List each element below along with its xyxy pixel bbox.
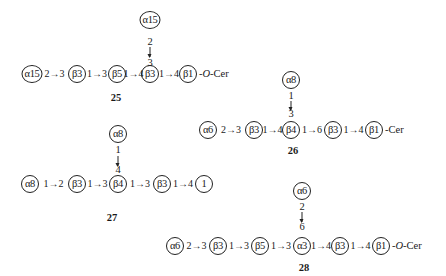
- branch-from-position: 2: [299, 202, 304, 213]
- linkage-label: 1→4: [311, 241, 331, 251]
- branch-sugar-node: α6: [293, 182, 311, 200]
- linkage-label: 1→3: [87, 69, 107, 79]
- sugar-node: β5: [251, 237, 269, 255]
- branch-arrow: [150, 47, 151, 57]
- linkage-label: 2→3: [221, 125, 241, 135]
- sugar-node: β1: [365, 121, 383, 139]
- sugar-node: β3: [331, 237, 349, 255]
- compound-number-label: 25: [111, 92, 122, 103]
- linkage-label: 1→3: [271, 241, 291, 251]
- linkage-label: 1→3: [229, 241, 249, 251]
- sugar-node: α6: [199, 121, 217, 139]
- branch-sugar-node: α15: [140, 11, 161, 29]
- linkage-label: 1→4: [344, 125, 364, 135]
- sugar-node: α8: [21, 175, 39, 193]
- linkage-label: 2→3: [187, 241, 207, 251]
- sugar-node: 1: [195, 175, 213, 193]
- sugar-node: β3: [153, 175, 171, 193]
- sugar-node: α15: [22, 65, 43, 83]
- compound-number-label: 28: [299, 262, 310, 273]
- sugar-node: β3: [209, 237, 227, 255]
- linkage-label: 1→4: [263, 125, 283, 135]
- linkage-label: 1→4: [173, 179, 193, 189]
- ceramide-terminal: -O-Cer: [392, 241, 422, 252]
- sugar-node: β1: [179, 65, 197, 83]
- sugar-node: β1: [372, 237, 390, 255]
- sugar-node: β4: [282, 121, 300, 139]
- compound-number-label: 26: [288, 145, 299, 156]
- linkage-label: 1→2: [44, 179, 64, 189]
- branch-sugar-node: α8: [109, 125, 127, 143]
- sugar-node: α3: [293, 237, 311, 255]
- branch-from-position: 2: [147, 37, 152, 48]
- branch-to-position: 4: [115, 165, 120, 176]
- sugar-node: β4: [109, 175, 127, 193]
- compound-number-label: 27: [107, 212, 118, 223]
- sugar-node: β3: [68, 175, 86, 193]
- linkage-label: 1→4: [124, 69, 144, 79]
- linkage-label: 2→3: [45, 69, 65, 79]
- linkage-label: 1→3: [130, 179, 150, 189]
- linkage-label: 1→3: [88, 179, 108, 189]
- linkage-label: 1→4: [159, 69, 179, 79]
- branch-to-position: 6: [299, 222, 304, 233]
- branch-to-position: 3: [147, 58, 152, 69]
- branch-from-position: 1: [288, 91, 293, 102]
- linkage-label: 1→4: [351, 241, 371, 251]
- branch-sugar-node: α8: [282, 71, 300, 89]
- branch-from-position: 1: [115, 145, 120, 156]
- sugar-node: β3: [245, 121, 263, 139]
- ceramide-terminal: -Cer: [385, 125, 404, 136]
- ceramide-terminal: -O-Cer: [199, 69, 229, 80]
- branch-to-position: 3: [288, 109, 293, 120]
- linkage-label: 1→6: [302, 125, 322, 135]
- sugar-node: α6: [166, 237, 184, 255]
- sugar-node: β3: [68, 65, 86, 83]
- sugar-node: β3: [324, 121, 342, 139]
